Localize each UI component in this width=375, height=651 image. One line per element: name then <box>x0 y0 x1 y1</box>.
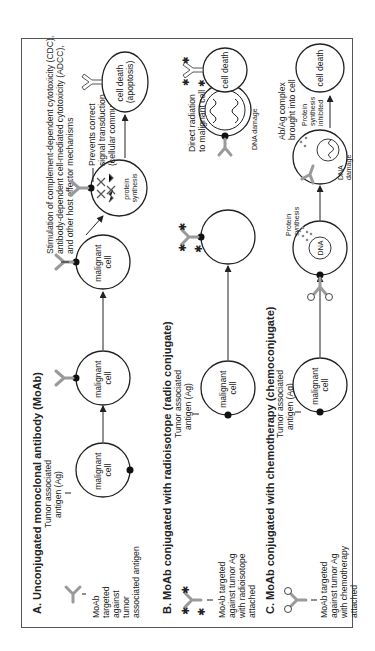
row-c-complex-text: Ab/Ag complex brought into cell <box>277 79 297 140</box>
free-antibody-icon <box>66 587 80 602</box>
radio-antibody-icon: ✱ ✱ ✱ <box>180 586 207 616</box>
svg-text:protein synthesis: protein synthesis <box>123 173 139 203</box>
row-c-ag-label: Tumor associated antigen (Ag) <box>275 368 295 438</box>
row-c-moab-label: MoAb targeted against tumor Ag with chem… <box>319 543 359 619</box>
row-b-radiation-text: Direct radiation to malignant cell <box>187 90 207 152</box>
released-radio-antibody-icon: ✱ ✱ ✱ <box>181 56 207 87</box>
antigen-dot <box>127 467 134 474</box>
svg-text:✱: ✱ <box>177 244 188 252</box>
row-b-title: B. MoAb conjugated with radioisotope (ra… <box>161 321 173 614</box>
row-a: A. Unconjugated monoclonal antibody (MoA… <box>31 33 148 618</box>
row-a-effector-text: Stimulation of complement-dependent cyto… <box>45 33 75 254</box>
svg-text:cell death (apoptosis): cell death (apoptosis) <box>115 61 135 104</box>
released-antibody-icon <box>82 74 102 90</box>
row-c: C. MoAb conjugated with chemotherapy (ch… <box>264 44 359 619</box>
signal-blocked-cell <box>91 160 147 216</box>
svg-text:✱: ✱ <box>193 245 204 253</box>
svg-text:✱: ✱ <box>180 586 191 594</box>
svg-text:✱: ✱ <box>196 608 207 616</box>
row-c-title: C. MoAb conjugated with chemotherapy (ch… <box>264 306 276 614</box>
row-a-moab-label: MoAb targeted against tumor associated a… <box>91 546 141 618</box>
svg-text:✱: ✱ <box>181 78 191 86</box>
svg-text:✱: ✱ <box>197 79 207 87</box>
row-b-ag-label: Tumor associated antigen (Ag) <box>173 368 193 438</box>
svg-text:✱: ✱ <box>180 607 191 615</box>
svg-text:cell death: cell death <box>220 51 230 88</box>
chemo-antibody-icon <box>285 588 307 613</box>
row-a-title: A. Unconjugated monoclonal antibody (MoA… <box>31 372 43 614</box>
diagram-rotated: A. Unconjugated monoclonal antibody (MoA… <box>21 38 353 628</box>
row-c-inhibited-text: Protein synthesis inhibited <box>301 95 324 126</box>
diagram-canvas: A. Unconjugated monoclonal antibody (MoA… <box>21 38 353 628</box>
row-b-moab-label: MoAb targeted against tumor Ag with radi… <box>217 551 257 619</box>
svg-text:✱: ✱ <box>181 56 191 64</box>
malignant-cell-b2 <box>201 210 255 264</box>
svg-text:DNA: DNA <box>317 240 324 255</box>
row-a-ag-label: Tumor associated antigen (Ag) <box>43 458 63 528</box>
svg-text:✱: ✱ <box>177 223 188 231</box>
svg-text:cell death: cell death <box>315 49 325 86</box>
row-b-dna-damage: DNA damage <box>251 108 259 150</box>
row-c-protein-label: Protein synthesis <box>285 206 301 236</box>
row-b: B. MoAb conjugated with radioisotope (ra… <box>161 48 259 619</box>
